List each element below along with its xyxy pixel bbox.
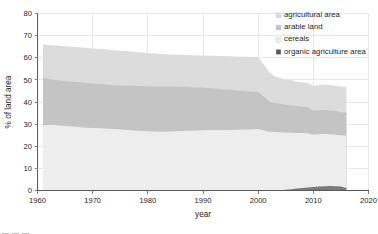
y-tick-label: 10 [24, 164, 32, 173]
x-tick-label: 1960 [29, 196, 46, 205]
legend-label: cereals [284, 34, 309, 43]
legend-swatch [276, 13, 281, 18]
x-tick-label: 2020 [360, 196, 377, 205]
x-tick-label: 2010 [305, 196, 322, 205]
x-tick-label: 1990 [195, 196, 212, 205]
area-chart: 01020304050607080 1960197019801990200020… [0, 0, 378, 234]
cropped-caption-artifact [2, 224, 36, 230]
x-tick-label: 2000 [250, 196, 267, 205]
legend-label: agricultural area [284, 10, 341, 19]
y-tick-label: 40 [24, 98, 32, 107]
y-tick-label: 70 [24, 31, 32, 40]
chart-canvas: 01020304050607080 1960197019801990200020… [0, 0, 378, 234]
artifact-mark [2, 233, 9, 234]
x-axis-title: year [195, 210, 211, 219]
artifact-mark [22, 233, 29, 234]
y-tick-label: 30 [24, 120, 32, 129]
area-series-cereals [43, 125, 346, 191]
legend-label: organic agriculture area [284, 47, 367, 56]
x-tick-label: 1970 [84, 196, 101, 205]
legend-swatch [276, 25, 281, 30]
y-tick-label: 20 [24, 142, 32, 151]
artifact-mark [12, 233, 19, 234]
legend-label: arable land [284, 22, 323, 31]
legend-swatch [276, 49, 281, 54]
y-tick-label: 60 [24, 53, 32, 62]
x-tick-label: 1980 [139, 196, 156, 205]
y-axis-title: % of land area [4, 75, 13, 128]
y-tick-label: 0 [28, 186, 32, 195]
y-tick-label: 80 [24, 9, 32, 18]
legend-swatch [276, 37, 281, 42]
y-tick-label: 50 [24, 76, 32, 85]
